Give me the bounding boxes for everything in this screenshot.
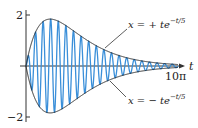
x-axis-arrow-icon bbox=[179, 64, 185, 69]
x-tick-label-end: 10π bbox=[165, 70, 186, 83]
lower-leader-line bbox=[110, 81, 126, 97]
chart: 2 −2 10π t x = + te−t/5 x = − te−t/5 bbox=[0, 0, 198, 128]
y-tick-label-bottom: −2 bbox=[7, 111, 23, 124]
upper-envelope-label: x = + te−t/5 bbox=[128, 17, 186, 30]
upper-leader-line bbox=[105, 29, 127, 48]
x-axis-label: t bbox=[189, 60, 194, 73]
lower-envelope-label: x = − te−t/5 bbox=[128, 93, 186, 106]
y-tick-label-top: 2 bbox=[16, 9, 23, 22]
